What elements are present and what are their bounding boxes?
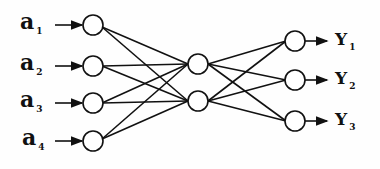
input-node-2	[83, 56, 103, 76]
network-graph	[0, 0, 380, 169]
input-label-1: a1	[20, 10, 43, 32]
output-label-1: Y1	[335, 31, 355, 48]
input-label-4: a4	[22, 126, 45, 148]
nodes	[83, 15, 305, 151]
input-node-3	[83, 93, 103, 113]
input-node-4	[83, 131, 103, 151]
hidden-node-2	[188, 91, 208, 111]
output-node-2	[285, 70, 305, 90]
output-node-1	[285, 31, 305, 51]
output-label-3: Y3	[335, 111, 355, 128]
input-node-1	[83, 15, 103, 35]
input-label-2: a2	[20, 51, 43, 73]
neural-network-diagram: a1 a2 a3 a4 Y1 Y2 Y3	[0, 0, 380, 169]
output-node-3	[285, 111, 305, 131]
input-label-3: a3	[20, 88, 43, 110]
output-label-2: Y2	[335, 70, 355, 87]
hidden-node-1	[188, 54, 208, 74]
